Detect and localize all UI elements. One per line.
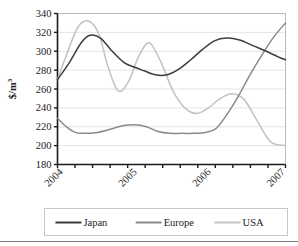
y-tick-label: 280: [36, 65, 52, 76]
y-axis-label: $/m3: [6, 78, 18, 99]
chart-figure: 180200220240260280300320340 200420052006…: [0, 0, 298, 246]
legend-label-usa: USA: [243, 217, 264, 228]
x-tick-label: 2007: [264, 166, 287, 189]
x-tick-label-group: 2005: [116, 166, 139, 189]
footer-rule: [0, 241, 298, 242]
y-axis-ticks: 180200220240260280300320340: [36, 8, 58, 170]
y-tick-label: 340: [36, 8, 52, 19]
y-axis-label-exponent: 3: [6, 78, 14, 82]
x-tick-label-group: 2007: [264, 166, 287, 189]
y-tick-label: 200: [36, 140, 52, 151]
y-tick-label: 260: [36, 84, 52, 95]
line-chart: 180200220240260280300320340 200420052006…: [0, 0, 298, 246]
grid-lines: [58, 14, 286, 146]
y-tick-label: 300: [36, 46, 52, 57]
x-axis-ticks: 2004200520062007: [42, 165, 287, 189]
legend-label-europe: Europe: [164, 217, 195, 228]
y-tick-label: 320: [36, 27, 52, 38]
x-tick-label-group: 2006: [190, 166, 213, 189]
y-axis-label-group: $/m3: [6, 78, 18, 99]
chart-legend: JapanEuropeUSA: [45, 209, 288, 236]
series-line-europe: [58, 23, 286, 134]
x-tick-label: 2005: [116, 166, 139, 189]
legend-label-japan: Japan: [83, 217, 108, 228]
x-tick-label: 2006: [190, 166, 213, 189]
y-axis-label-text: $/m3: [6, 78, 18, 99]
y-tick-label: 220: [36, 121, 52, 132]
y-tick-label: 240: [36, 102, 52, 113]
y-tick-label: 180: [36, 159, 52, 170]
